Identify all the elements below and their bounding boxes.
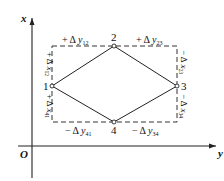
svg-text:− Δ x34: − Δ x34 bbox=[178, 94, 189, 118]
point-3-marker bbox=[175, 84, 179, 88]
quadrilateral-1234 bbox=[52, 46, 177, 122]
svg-text:+ Δ x12: + Δ x12 bbox=[44, 52, 55, 76]
increment-top-right: + Δ y23 bbox=[136, 34, 162, 46]
point-3-label: 3 bbox=[181, 80, 187, 92]
vertical-axis-label: x bbox=[20, 12, 27, 24]
dashed-bounding-rect bbox=[52, 46, 177, 122]
increment-left-upper: + Δ x12 bbox=[44, 52, 55, 76]
increment-left-lower: + Δ x41 bbox=[44, 94, 55, 118]
point-1-marker bbox=[50, 84, 54, 88]
svg-text:− Δ y34: − Δ y34 bbox=[132, 125, 158, 137]
horizontal-axis-label: y bbox=[216, 147, 223, 159]
increment-bottom-right: − Δ y34 bbox=[132, 125, 158, 137]
point-4-label: 4 bbox=[111, 124, 117, 136]
point-1-label: 1 bbox=[43, 80, 49, 92]
increment-top-left: + Δ y12 bbox=[62, 34, 88, 46]
increment-right-upper: − Δ x23 bbox=[178, 50, 189, 74]
svg-text:+ Δ y23: + Δ y23 bbox=[136, 34, 162, 46]
point-2-marker bbox=[112, 44, 116, 48]
svg-text:− Δ x23: − Δ x23 bbox=[178, 50, 189, 74]
svg-text:+ Δ y12: + Δ y12 bbox=[62, 34, 88, 46]
increment-right-lower: − Δ x34 bbox=[178, 94, 189, 118]
svg-text:+ Δ x41: + Δ x41 bbox=[44, 94, 55, 118]
svg-text:− Δ y41: − Δ y41 bbox=[65, 125, 91, 137]
coordinate-diagram: x y O 1 2 3 4 + Δ y12 + Δ y23 − Δ y41 bbox=[0, 0, 224, 181]
point-2-label: 2 bbox=[111, 31, 117, 43]
increment-bottom-left: − Δ y41 bbox=[65, 125, 91, 137]
origin-label: O bbox=[20, 148, 28, 160]
